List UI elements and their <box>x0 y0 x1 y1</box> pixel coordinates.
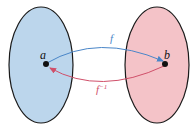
point-a-label: a <box>40 48 46 62</box>
point-b-label: b <box>164 48 170 62</box>
inverse-label-superscript: −1 <box>99 83 107 91</box>
codomain-set-ellipse <box>125 7 189 123</box>
mapping-diagram: a b f f−1 <box>0 0 195 130</box>
forward-arrow-label: f <box>110 32 115 44</box>
domain-set-ellipse <box>9 7 73 123</box>
inverse-arrow-label: f−1 <box>96 83 107 95</box>
